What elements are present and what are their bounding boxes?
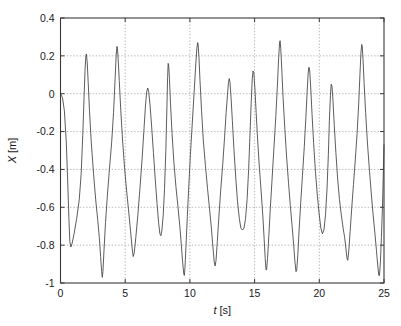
x-tick-label: 20	[313, 287, 325, 299]
x-tick-label: 25	[378, 287, 390, 299]
y-tick-label: -0.6	[36, 201, 54, 213]
x-axis-title: t [s]	[213, 304, 231, 316]
x-tick-label: 10	[184, 287, 196, 299]
y-tick-label: -0.4	[36, 163, 54, 175]
x-tick-label: 15	[249, 287, 261, 299]
y-tick-label: 0	[49, 88, 55, 100]
y-tick-label: 0.4	[40, 12, 55, 24]
x-tick-label: 5	[122, 287, 128, 299]
line-chart: -1-0.8-0.6-0.4-0.200.20.4 0510152025 t […	[0, 0, 401, 326]
y-axis-title: X [m]	[6, 138, 18, 165]
y-tick-label: 0.2	[40, 50, 55, 62]
y-tick-label: -1	[45, 277, 54, 289]
x-tick-label: 0	[58, 287, 64, 299]
chart-figure: -1-0.8-0.6-0.4-0.200.20.4 0510152025 t […	[0, 0, 401, 326]
y-tick-label: -0.2	[36, 125, 54, 137]
y-tick-label: -0.8	[36, 239, 54, 251]
